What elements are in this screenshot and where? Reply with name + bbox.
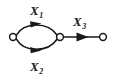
directed-graph-svg: X1 X2 X3 [0, 0, 113, 78]
edge-label-x1: X1 [29, 3, 43, 20]
edge-x3-arrowhead [77, 33, 89, 42]
edge-label-x2: X2 [29, 59, 43, 76]
edge-label-x3-subscript: 3 [81, 22, 86, 31]
edge-label-x1-text: X [29, 3, 39, 18]
edge-x2 [16, 39, 57, 53]
edge-label-x2-text: X [29, 59, 39, 74]
edge-x3 [64, 33, 100, 42]
edge-label-x3-text: X [72, 14, 82, 29]
edge-x2-path [16, 39, 57, 50]
node-middle [57, 34, 64, 41]
node-left [10, 34, 17, 41]
diagram-canvas: X1 X2 X3 [0, 0, 113, 78]
edge-x1 [16, 21, 57, 35]
edge-x2-arrowhead [30, 47, 42, 53]
edge-label-x1-subscript: 1 [39, 11, 43, 20]
node-right [100, 34, 107, 41]
edge-x1-path [16, 25, 57, 35]
edge-label-x3: X3 [72, 14, 86, 31]
edge-label-x2-subscript: 2 [38, 67, 43, 76]
edge-x1-arrowhead [30, 21, 42, 27]
